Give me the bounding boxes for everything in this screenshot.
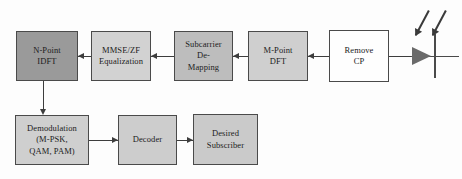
antenna-triangle-icon xyxy=(412,47,431,65)
block-diagram-canvas: N-Point IDFT MMSE/ZF Equalization Subcar… xyxy=(0,0,462,179)
block-decoder-label: Decoder xyxy=(121,134,174,145)
block-remove-cp[interactable]: Remove CP xyxy=(329,30,389,82)
block-remove-cp-label: Remove CP xyxy=(332,45,386,67)
conn-antenna-to-removecp-line xyxy=(389,56,411,57)
conn-dft-to-demapping-arrow xyxy=(233,53,239,59)
block-m-point-dft-label: M-Point DFT xyxy=(251,45,305,67)
block-demodulation-label: Demodulation (M-PSK, QAM, PAM) xyxy=(18,123,86,157)
block-demodulation[interactable]: Demodulation (M-PSK, QAM, PAM) xyxy=(15,115,89,165)
conn-removecp-to-dft-arrow xyxy=(308,53,314,59)
block-m-point-dft[interactable]: M-Point DFT xyxy=(248,31,308,81)
incoming-wave-arrow-1 xyxy=(415,10,428,35)
block-desired-subscriber[interactable]: Desired Subscriber xyxy=(193,114,258,165)
block-decoder[interactable]: Decoder xyxy=(118,115,177,165)
conn-idft-to-demodulation-line xyxy=(43,81,44,110)
conn-equalization-to-idft-arrow xyxy=(78,53,84,59)
block-desired-subscriber-label: Desired Subscriber xyxy=(196,128,255,150)
block-mmse-zf-equalization[interactable]: MMSE/ZF Equalization xyxy=(91,31,151,81)
block-subcarrier-de-mapping[interactable]: Subcarrier De- Mapping xyxy=(174,31,233,81)
conn-demapping-to-equalization-arrow xyxy=(151,53,157,59)
block-n-point-idft[interactable]: N-Point IDFT xyxy=(16,31,78,81)
block-mmse-zf-equalization-label: MMSE/ZF Equalization xyxy=(94,45,148,67)
incoming-wave-arrow-2 xyxy=(432,10,445,35)
antenna-mast-line xyxy=(434,34,436,78)
block-subcarrier-de-mapping-label: Subcarrier De- Mapping xyxy=(177,39,230,73)
antenna-feed-line xyxy=(411,56,459,58)
block-n-point-idft-label: N-Point IDFT xyxy=(19,45,75,67)
